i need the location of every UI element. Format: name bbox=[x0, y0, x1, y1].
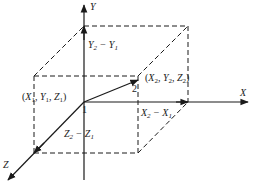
box-top-right-diagonal bbox=[138, 26, 188, 76]
coordinate-diagram: Y X Z Y2 − Y1 X2 − X1 Z2 − Z1 (X1, Y1, Z… bbox=[0, 0, 259, 183]
y-axis-label: Y bbox=[90, 1, 97, 12]
x-axis-label: X bbox=[239, 87, 247, 98]
point-2-number: 2 bbox=[132, 83, 137, 94]
z-difference-label: Z2 − Z1 bbox=[64, 128, 94, 141]
point-1-number: 1 bbox=[82, 104, 87, 115]
z-axis-label: Z bbox=[3, 159, 9, 170]
x-difference-label: X2 − X1 bbox=[140, 107, 172, 120]
z-difference-arrow bbox=[34, 143, 44, 153]
point-1-coordinates: (X1, Y1, Z1) bbox=[22, 91, 66, 104]
point-2-coordinates: (X2, Y2, Z2) bbox=[145, 72, 189, 85]
vector-1-to-2 bbox=[84, 80, 138, 102]
box-top-left-diagonal bbox=[34, 26, 84, 76]
z-axis bbox=[8, 102, 84, 180]
y-difference-label: Y2 − Y1 bbox=[88, 39, 118, 52]
